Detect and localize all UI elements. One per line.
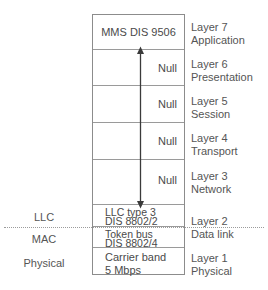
right-label-layer7-name: Application xyxy=(191,34,268,47)
left-label-mac: MAC xyxy=(0,233,88,245)
right-label-layer7-number: Layer 7 xyxy=(191,21,268,34)
right-label-layer3-name: Network xyxy=(191,183,268,196)
stack-row-application: MMS DIS 9506 xyxy=(93,15,184,50)
stack-cell-transport-label: Null xyxy=(158,135,177,147)
right-label-layer5: Layer 5 Session xyxy=(191,95,268,121)
right-label-layer5-number: Layer 5 xyxy=(191,95,268,108)
stack-cell-physical-line2: 5 Mbps xyxy=(105,264,141,277)
right-label-layer2-number: Layer 2 xyxy=(191,215,268,228)
stack-row-mac: Token bus DIS 8802/4 xyxy=(93,227,184,248)
right-label-layer4-name: Transport xyxy=(191,145,268,158)
stack-row-physical: Carrier band 5 Mbps xyxy=(93,248,184,276)
left-label-llc: LLC xyxy=(0,211,88,223)
right-label-layer3-number: Layer 3 xyxy=(191,170,268,183)
right-label-layer1-number: Layer 1 xyxy=(191,252,268,265)
right-label-layer1-name: Physical xyxy=(191,265,268,278)
right-label-layer4-number: Layer 4 xyxy=(191,132,268,145)
stack-cell-presentation-label: Null xyxy=(158,62,177,74)
stack-cell-physical-line1: Carrier band xyxy=(105,251,166,264)
null-layers-span-arrow xyxy=(139,50,142,205)
right-label-layer6-name: Presentation xyxy=(191,71,268,84)
protocol-stack-diagram: MMS DIS 9506 Null Null Null Null LLC typ… xyxy=(0,0,268,290)
right-label-layer6: Layer 6 Presentation xyxy=(191,58,268,84)
arrow-head-up-icon xyxy=(134,46,147,58)
right-label-layer6-number: Layer 6 xyxy=(191,58,268,71)
right-label-layer5-name: Session xyxy=(191,108,268,121)
right-label-layer2: Layer 2 Data link xyxy=(191,215,268,241)
right-label-layer2-name: Data link xyxy=(191,228,268,241)
stack-cell-application-label: MMS DIS 9506 xyxy=(93,26,184,38)
right-label-layer3: Layer 3 Network xyxy=(191,170,268,196)
arrow-head-down-icon xyxy=(134,197,147,209)
stack-cell-network-label: Null xyxy=(158,174,177,186)
left-label-physical: Physical xyxy=(0,257,88,269)
right-label-layer7: Layer 7 Application xyxy=(191,21,268,47)
stack-cell-session-label: Null xyxy=(158,98,177,110)
right-label-layer1: Layer 1 Physical xyxy=(191,252,268,278)
stack-cell-llc-line2: DIS 8802/2 xyxy=(105,216,158,227)
right-label-layer4: Layer 4 Transport xyxy=(191,132,268,158)
